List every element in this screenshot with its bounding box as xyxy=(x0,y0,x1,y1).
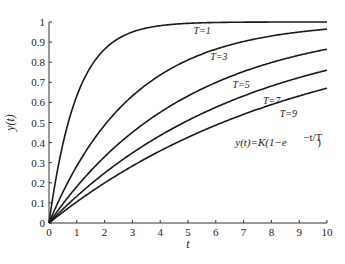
series-label: T=9 xyxy=(280,108,297,119)
y-tick-label: 0.4 xyxy=(31,137,45,149)
formula-annotation: y(t)=K(1−e −t/T ) xyxy=(234,131,322,149)
formula-text: y(t)=K(1−e xyxy=(234,136,287,149)
y-tick-label: 1 xyxy=(40,16,46,28)
x-tick-label: 7 xyxy=(241,226,247,238)
step-response-chart: 012345678910 00.10.20.30.40.50.60.70.80.… xyxy=(0,0,345,264)
x-tick-label: 1 xyxy=(74,226,80,238)
x-axis-label: t xyxy=(186,237,190,251)
y-tick-label: 0.3 xyxy=(31,157,45,169)
x-tick-label: 6 xyxy=(213,226,219,238)
curve-labels: T=1T=3T=5T=7T=9 xyxy=(194,25,297,119)
x-tick-label: 0 xyxy=(46,226,52,238)
series-label: T=5 xyxy=(232,79,249,90)
y-tick-label: 0.8 xyxy=(31,56,45,68)
curves xyxy=(49,22,327,223)
x-tick-label: 4 xyxy=(157,226,163,238)
x-tick-label: 9 xyxy=(296,226,302,238)
series-label: T=3 xyxy=(210,51,227,62)
y-tick-label: 0.6 xyxy=(31,96,45,108)
series-label: T=7 xyxy=(263,95,281,106)
y-tick-label: 0.5 xyxy=(31,117,45,129)
formula-close: ) xyxy=(317,136,321,149)
series-label: T=1 xyxy=(194,25,211,36)
x-tick-label: 10 xyxy=(322,226,334,238)
y-tick-label: 0.9 xyxy=(31,36,45,48)
y-tick-label: 0.7 xyxy=(31,76,45,88)
x-tick-label: 8 xyxy=(269,226,275,238)
y-tick-label: 0.1 xyxy=(31,197,45,209)
x-tick-label: 2 xyxy=(102,226,108,238)
y-tick-label: 0 xyxy=(40,217,46,229)
y-tick-label: 0.2 xyxy=(31,177,45,189)
y-axis-label: y(t) xyxy=(3,114,17,132)
x-tick-label: 3 xyxy=(130,226,136,238)
